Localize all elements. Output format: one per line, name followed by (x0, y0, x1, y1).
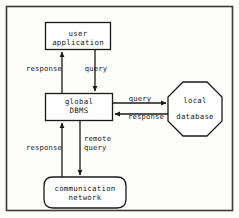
edge-label-response-upper: response (16, 64, 72, 73)
edge-label-query-right: query (120, 94, 160, 103)
edge-label-response-right: response (118, 112, 174, 121)
diagram-svg (0, 0, 239, 218)
edge-label-response-lower: response (16, 143, 72, 152)
edge-label-remote-query: remote query (84, 134, 128, 152)
diagram-canvas: user application global DBMS localdataba… (0, 0, 239, 218)
edge-label-query-upper: query (76, 64, 116, 73)
node-communication-network[interactable] (44, 177, 126, 208)
node-global-dbms[interactable] (46, 94, 113, 121)
node-local-database[interactable] (168, 82, 222, 136)
node-user-application[interactable] (46, 23, 111, 50)
